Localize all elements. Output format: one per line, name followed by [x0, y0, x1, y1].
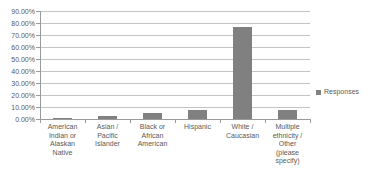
x-axis-category-line: Islander	[85, 140, 130, 149]
bar-chart: 90.00%80.00%70.00%60.00%50.00%40.00%30.0…	[0, 0, 371, 186]
y-axis-tick-label: 60.00%	[11, 44, 35, 51]
y-axis-labels: 90.00%80.00%70.00%60.00%50.00%40.00%30.0…	[0, 0, 38, 126]
y-axis-tick-mark	[36, 35, 40, 36]
y-axis-tick-label: 30.00%	[11, 80, 35, 87]
x-axis-category-line: Other	[265, 140, 310, 149]
x-axis-category-line: ethnicity /	[265, 132, 310, 141]
x-axis-category-line: specify)	[265, 157, 310, 166]
x-axis-category-line: Alaskan	[40, 140, 85, 149]
y-axis-tick-mark	[36, 23, 40, 24]
y-axis-tick-label: 50.00%	[11, 56, 35, 63]
x-axis-category-line: American	[40, 123, 85, 132]
y-axis-tick-label: 20.00%	[11, 92, 35, 99]
x-axis-category-line: Asian /	[85, 123, 130, 132]
y-axis-tick-mark	[36, 95, 40, 96]
x-axis-tick-mark	[310, 119, 311, 123]
y-axis-tick-mark	[36, 11, 40, 12]
x-axis-tick-mark	[130, 119, 131, 123]
y-axis-tick-label: 80.00%	[11, 20, 35, 27]
y-axis-tick-label: 90.00%	[11, 8, 35, 15]
y-axis-tick-mark	[36, 107, 40, 108]
y-axis-tick-label: 0.00%	[15, 116, 35, 123]
x-axis-category-line: Indian or	[40, 132, 85, 141]
bar	[98, 116, 117, 119]
x-axis-category-label: AmericanIndian orAlaskanNative	[40, 123, 85, 157]
bars-layer	[40, 11, 310, 119]
x-axis-category-line: American	[130, 140, 175, 149]
x-axis-labels: AmericanIndian orAlaskanNativeAsian /Pac…	[40, 123, 310, 186]
x-axis-category-label: Multipleethnicity /Other(pleasespecify)	[265, 123, 310, 166]
x-axis-category-label: Black orAfricanAmerican	[130, 123, 175, 149]
x-axis-category-line: Hispanic	[175, 123, 220, 132]
x-axis-category-line: Native	[40, 149, 85, 158]
x-axis-category-line: Black or	[130, 123, 175, 132]
legend-swatch-responses	[316, 90, 321, 95]
y-axis-tick-label: 40.00%	[11, 68, 35, 75]
x-axis-category-line: (please	[265, 149, 310, 158]
x-axis-tick-mark	[175, 119, 176, 123]
bar	[143, 113, 162, 119]
legend-label-responses: Responses	[324, 88, 359, 96]
x-axis-category-line: African	[130, 132, 175, 141]
x-axis-category-line: Caucasian	[220, 132, 265, 141]
bar	[188, 110, 207, 119]
x-axis-tick-mark	[40, 119, 41, 123]
y-axis-tick-label: 10.00%	[11, 104, 35, 111]
y-axis-tick-mark	[36, 47, 40, 48]
bar	[53, 118, 72, 119]
x-axis-category-label: White /Caucasian	[220, 123, 265, 140]
x-axis-tick-mark	[265, 119, 266, 123]
x-axis-category-line: Pacific	[85, 132, 130, 141]
x-axis-category-label: Hispanic	[175, 123, 220, 132]
y-axis-tick-mark	[36, 71, 40, 72]
x-axis-category-label: Asian /PacificIslander	[85, 123, 130, 149]
y-axis-tick-label: 70.00%	[11, 32, 35, 39]
bar	[233, 27, 252, 119]
y-axis-tick-mark	[36, 83, 40, 84]
x-axis-tick-mark	[85, 119, 86, 123]
x-axis-category-line: White /	[220, 123, 265, 132]
bar	[278, 110, 297, 119]
chart-legend: Responses	[316, 88, 359, 96]
x-axis-tick-mark	[220, 119, 221, 123]
y-axis-tick-mark	[36, 59, 40, 60]
x-axis-category-line: Multiple	[265, 123, 310, 132]
